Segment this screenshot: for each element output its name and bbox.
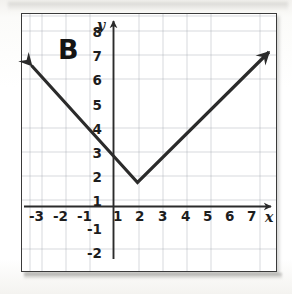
x-tick-label-4: 4 xyxy=(181,210,190,224)
x-tick-label-7: 7 xyxy=(247,210,256,224)
scan-artifact-bottom xyxy=(24,273,282,279)
y-tick-label-neg2: -2 xyxy=(80,247,102,261)
y-tick-label-2: 2 xyxy=(84,171,102,185)
x-tick-label-1: 1 xyxy=(113,210,122,224)
x-tick-label-3: 3 xyxy=(158,210,167,224)
x-tick-label-neg3: -3 xyxy=(29,210,44,224)
y-tick-label-5: 5 xyxy=(84,99,102,113)
panel-label: B xyxy=(58,36,79,63)
y-tick-label-6: 6 xyxy=(84,74,102,88)
x-tick-label-6: 6 xyxy=(225,210,234,224)
y-tick-label-4: 4 xyxy=(84,123,102,137)
y-tick-label-1: 1 xyxy=(84,195,102,209)
x-tick-label-2: 2 xyxy=(135,210,144,224)
x-tick-label-5: 5 xyxy=(203,210,212,224)
x-tick-label-neg2: -2 xyxy=(53,210,68,224)
plot-frame: B 8 7 6 5 4 3 2 1 -1 -2 -3 -2 -1 1 2 3 4… xyxy=(21,13,277,272)
function-curve xyxy=(32,52,270,183)
graph-figure: B 8 7 6 5 4 3 2 1 -1 -2 -3 -2 -1 1 2 3 4… xyxy=(0,0,292,294)
y-tick-label-neg1: -1 xyxy=(80,223,102,237)
x-axis-label: x xyxy=(265,210,273,224)
y-axis-label: y xyxy=(97,18,105,32)
y-tick-label-3: 3 xyxy=(84,147,102,161)
y-tick-label-7: 7 xyxy=(84,50,102,64)
x-tick-label-neg1: -1 xyxy=(77,210,92,224)
